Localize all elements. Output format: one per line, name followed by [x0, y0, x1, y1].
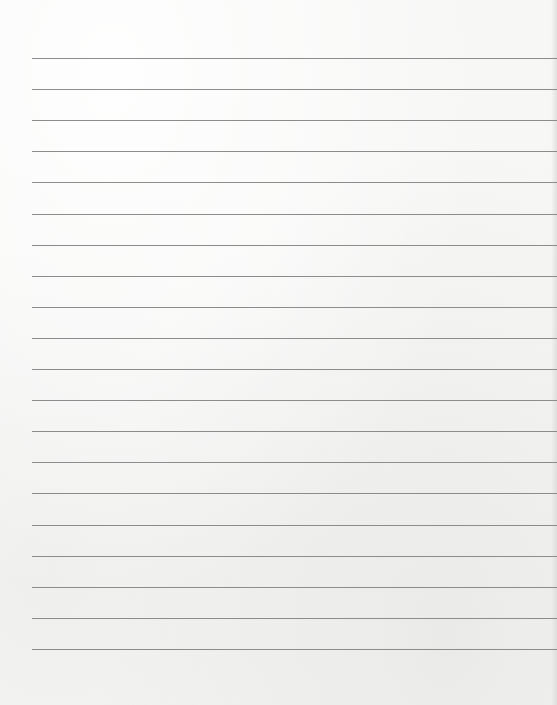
ruled-line: [32, 649, 557, 650]
ruled-line: [32, 276, 557, 277]
ruled-line: [32, 493, 557, 494]
paper-edge-shadow: [551, 0, 557, 705]
ruled-line: [32, 618, 557, 619]
ruled-line: [32, 89, 557, 90]
ruled-line: [32, 462, 557, 463]
ruled-line: [32, 58, 557, 59]
ruled-line: [32, 182, 557, 183]
ruled-line: [32, 525, 557, 526]
ruled-line: [32, 400, 557, 401]
ruled-line: [32, 338, 557, 339]
ruled-line: [32, 120, 557, 121]
lined-paper-sheet: [0, 0, 557, 705]
ruled-line: [32, 214, 557, 215]
ruled-line: [32, 307, 557, 308]
ruled-line: [32, 245, 557, 246]
ruled-line: [32, 556, 557, 557]
ruled-line: [32, 151, 557, 152]
ruled-line: [32, 587, 557, 588]
ruled-line: [32, 369, 557, 370]
ruled-line: [32, 431, 557, 432]
